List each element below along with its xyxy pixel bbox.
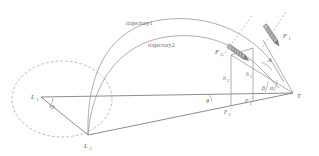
trajectory2-label: trajectory2 [148, 41, 175, 48]
trajectory1-curve [88, 19, 284, 135]
segment-l1-l2 [41, 97, 88, 135]
target-label: T [297, 92, 302, 99]
f2-prime-subscript: 2 [229, 112, 232, 117]
angle-theta-label: θ [206, 97, 209, 104]
label-l2: L 2 [83, 142, 93, 151]
angle-alpha-label: α [270, 84, 274, 91]
horizontal-baseline [41, 93, 293, 97]
f2-prime-letter: F [223, 109, 228, 115]
label-l1: L 1 [30, 93, 39, 102]
f2-letter: F [214, 48, 220, 55]
label-h2: h 2 [223, 75, 230, 83]
f1-subscript: 1 [289, 36, 291, 41]
f1-letter: F [282, 32, 288, 39]
angle-arc-beta [265, 82, 268, 92]
diagram-canvas: trajectory1 trajectory2 L 1 O L 2 T F 1 … [0, 0, 319, 156]
f1-prime-mark: ' [252, 96, 253, 101]
trajectory1-label: trajectory1 [126, 19, 153, 26]
label-f2: F 2 [214, 48, 224, 57]
angle-beta-label: β [261, 84, 266, 91]
angle-arc-theta [209, 94, 212, 102]
label-f1: F 1 [282, 32, 291, 41]
l2-letter: L [83, 142, 88, 149]
f2-prime-mark: ' [231, 107, 232, 112]
label-f2-prime: F 2 ' [223, 107, 232, 117]
f1-prime-subscript: 1 [250, 101, 252, 106]
l1-letter: L [30, 93, 35, 100]
l2-subscript: 2 [90, 146, 93, 151]
label-f1-prime: F 1 ' [244, 96, 253, 106]
label-h1: h 1 [246, 71, 252, 79]
angle-arc-big-a [261, 62, 272, 70]
f1-prime-letter: F [244, 98, 249, 104]
h1-letter: h [246, 71, 249, 77]
l1-subscript: 1 [37, 97, 39, 102]
trajectory2-curve [88, 36, 279, 135]
f2-subscript: 2 [221, 52, 224, 57]
angle-big-a-label: A [267, 56, 272, 63]
angle-o-label: O [50, 103, 55, 110]
h2-letter: h [223, 75, 226, 81]
trajectory-geometry-figure: trajectory1 trajectory2 L 1 O L 2 T F 1 … [0, 0, 319, 156]
projectile-f1-glyph [263, 24, 281, 47]
ground-slope-line [88, 93, 293, 135]
h1-subscript: 1 [250, 74, 252, 79]
h2-subscript: 2 [227, 78, 230, 83]
